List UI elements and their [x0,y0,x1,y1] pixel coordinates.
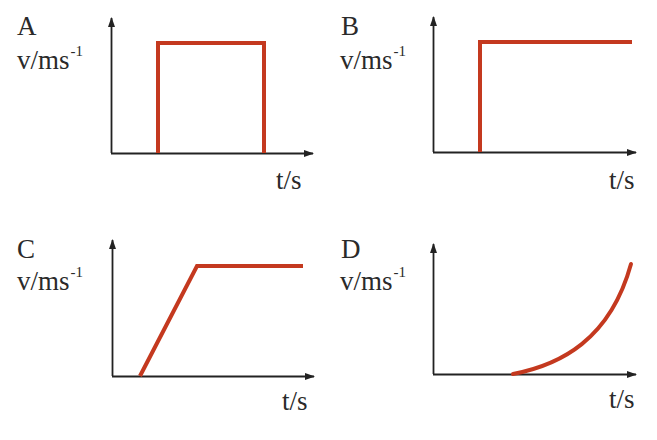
graph-d-axes [433,244,636,375]
graph-d-curve [513,264,631,374]
graph-a-curve [158,43,264,153]
graph-b-axes [433,17,636,153]
graph-c-axes [112,240,314,377]
graph-c-curve [140,266,303,376]
graph-a-axes [111,18,313,154]
graph-b-curve [480,42,632,152]
graphs-canvas [0,0,657,440]
